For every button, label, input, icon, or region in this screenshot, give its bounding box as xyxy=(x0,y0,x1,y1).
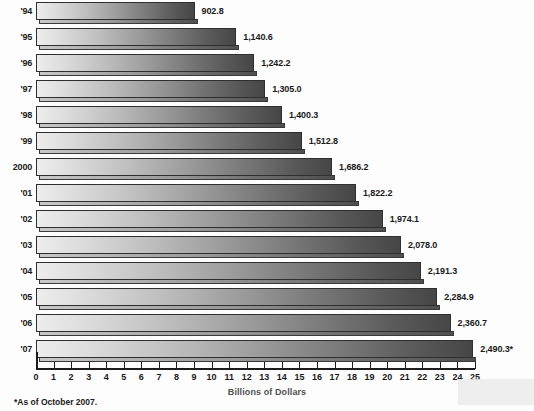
x-axis-tick-label: 11 xyxy=(224,372,234,383)
bar-value-label: 2,284.9 xyxy=(444,291,473,303)
x-axis-line xyxy=(36,368,475,370)
x-axis-tick xyxy=(229,362,230,369)
bar-chart: '94902.8'951,140.6'961,242.2'971,305.0'9… xyxy=(0,0,534,411)
x-axis-tick xyxy=(405,362,406,369)
bar-row: 20001,686.2 xyxy=(0,158,534,184)
bar xyxy=(36,340,473,364)
x-axis-tick xyxy=(124,362,125,369)
x-axis-tick-label: 16 xyxy=(312,372,322,383)
x-axis-tick xyxy=(71,362,72,369)
bar-value-label: 902.8 xyxy=(202,5,224,17)
y-axis-category-label: '04 xyxy=(0,265,32,277)
bar-row: '971,305.0 xyxy=(0,80,534,106)
scan-artifact xyxy=(458,379,534,405)
bar-row: '94902.8 xyxy=(0,2,534,28)
x-axis-tick xyxy=(317,362,318,369)
bar xyxy=(36,184,356,208)
bar-face xyxy=(36,236,401,254)
x-axis-tick-label: 14 xyxy=(277,372,287,383)
x-axis-tick-label: 17 xyxy=(330,372,340,383)
x-axis-tick-label: 3 xyxy=(86,372,91,383)
x-axis-tick xyxy=(247,362,248,369)
x-axis-tick xyxy=(352,362,353,369)
bar-face xyxy=(36,2,195,20)
y-axis-category-label: '96 xyxy=(0,57,32,69)
x-axis-tick-label: 13 xyxy=(259,372,269,383)
x-axis-tick-label: 5 xyxy=(121,372,126,383)
bar-value-label: 1,305.0 xyxy=(272,83,301,95)
bar-value-label: 1,822.2 xyxy=(363,187,392,199)
x-axis-tick xyxy=(89,362,90,369)
y-axis-category-label: '01 xyxy=(0,187,32,199)
bar-row: '021,974.1 xyxy=(0,210,534,236)
bar-value-label: 2,490.3* xyxy=(480,343,513,355)
chart-footnote: *As of October 2007. xyxy=(14,397,97,407)
x-axis-tick xyxy=(141,362,142,369)
bar xyxy=(36,314,451,338)
x-axis-tick-label: 21 xyxy=(400,372,410,383)
x-axis-tick xyxy=(54,362,55,369)
bar-value-label: 2,191.3 xyxy=(428,265,457,277)
y-axis-category-label: '07 xyxy=(0,343,32,355)
bar-value-label: 1,400.3 xyxy=(289,109,318,121)
x-axis-tick-label: 1 xyxy=(51,372,56,383)
bar xyxy=(36,262,421,286)
bar-row: '991,512.8 xyxy=(0,132,534,158)
y-axis-category-label: '05 xyxy=(0,291,32,303)
y-axis-category-label: '95 xyxy=(0,31,32,43)
x-axis-tick-label: 23 xyxy=(435,372,445,383)
bar-value-label: 2,360.7 xyxy=(458,317,487,329)
bar-row: '062,360.7 xyxy=(0,314,534,340)
x-axis-tick-label: 8 xyxy=(174,372,179,383)
bar xyxy=(36,210,383,234)
x-axis-tick-label: 0 xyxy=(33,372,38,383)
bar-row: '052,284.9 xyxy=(0,288,534,314)
x-axis-tick xyxy=(106,362,107,369)
x-axis-tick-label: 4 xyxy=(104,372,109,383)
x-axis-tick-label: 12 xyxy=(242,372,252,383)
y-axis-category-label: '97 xyxy=(0,83,32,95)
bar-value-label: 2,078.0 xyxy=(408,239,437,251)
x-axis-tick xyxy=(176,362,177,369)
x-axis-tick xyxy=(299,362,300,369)
bar-face xyxy=(36,314,451,332)
bar-face xyxy=(36,184,356,202)
bar-row: '032,078.0 xyxy=(0,236,534,262)
x-axis-tick-label: 15 xyxy=(294,372,304,383)
bar xyxy=(36,54,254,78)
x-axis-tick xyxy=(282,362,283,369)
y-axis-category-label: '03 xyxy=(0,239,32,251)
bar-face xyxy=(36,288,437,306)
bar-value-label: 1,140.6 xyxy=(243,31,272,43)
bar-row: '981,400.3 xyxy=(0,106,534,132)
x-axis-tick xyxy=(475,362,476,369)
x-axis-tick-label: 2 xyxy=(69,372,74,383)
x-axis-tick xyxy=(457,362,458,369)
x-axis-tick-label: 20 xyxy=(382,372,392,383)
x-axis-tick xyxy=(440,362,441,369)
bar-face xyxy=(36,158,332,176)
x-axis-tick-label: 19 xyxy=(365,372,375,383)
bar xyxy=(36,28,236,52)
bar-value-label: 1,242.2 xyxy=(261,57,290,69)
x-axis-tick xyxy=(335,362,336,369)
x-axis-tick xyxy=(159,362,160,369)
y-axis-category-label: 2000 xyxy=(0,161,32,173)
bar xyxy=(36,2,195,26)
x-axis-tick-label: 6 xyxy=(139,372,144,383)
bar xyxy=(36,158,332,182)
bar-row: '072,490.3* xyxy=(0,340,534,366)
bar-value-label: 1,974.1 xyxy=(390,213,419,225)
y-axis-category-label: '94 xyxy=(0,5,32,17)
x-axis-tick xyxy=(212,362,213,369)
x-axis-title: Billions of Dollars xyxy=(0,387,534,397)
bar-row: '961,242.2 xyxy=(0,54,534,80)
bar-face xyxy=(36,80,265,98)
x-axis-tick-label: 9 xyxy=(192,372,197,383)
x-axis-tick xyxy=(36,362,37,369)
bar-row: '011,822.2 xyxy=(0,184,534,210)
x-axis-tick xyxy=(370,362,371,369)
y-axis-category-label: '99 xyxy=(0,135,32,147)
x-axis-tick-label: 10 xyxy=(207,372,217,383)
bar-face xyxy=(36,106,282,124)
